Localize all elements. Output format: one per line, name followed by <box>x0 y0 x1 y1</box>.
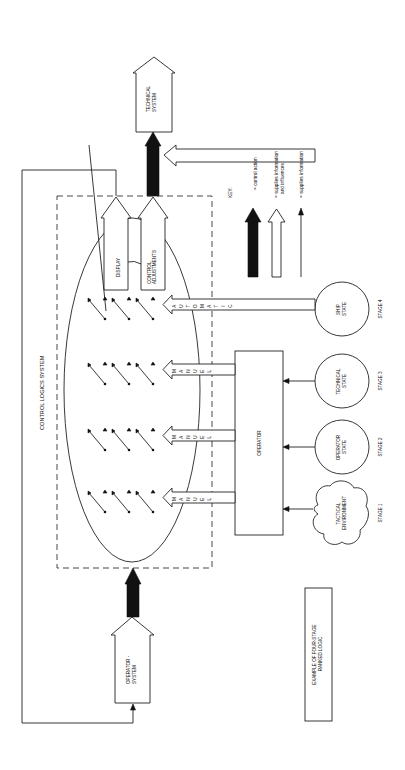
control-action-arrow-bottom <box>125 568 141 617</box>
control-logics-system-box <box>57 196 212 568</box>
switch-group-stage-4 <box>88 297 155 320</box>
operator-box: OPERATOR <box>235 351 283 535</box>
switch-groups <box>88 297 155 513</box>
tactical-environment-node: TACTICAL ENVIRONMENT <box>313 481 368 545</box>
operator-state-node: OPERATOR STATE <box>315 420 369 474</box>
svg-text:M: M <box>200 304 205 308</box>
automatic-arrow-stage-4 <box>164 145 315 166</box>
diagram-title-box: EXAMPLE OF FOUR-STAGE RANKED LOGIC <box>305 588 332 721</box>
operator-label: OPERATOR <box>257 430 262 456</box>
control-adjustments-arrow: CONTROL ADJUSTMENTS <box>138 197 168 290</box>
stage-2-label: STAGE 2 <box>378 437 383 457</box>
svg-text:L: L <box>207 497 212 500</box>
svg-text:E: E <box>200 498 205 501</box>
manual-arrow-stage-1: MANUEL <box>163 488 235 507</box>
info-arrow-stage-1 <box>283 507 313 512</box>
switch-group-stage-1 <box>88 490 155 513</box>
control-logics-system-label: CONTROL LOGICS SYSTEM <box>39 355 45 430</box>
svg-text:N: N <box>186 369 191 372</box>
info-arrow-stage-3 <box>283 379 315 384</box>
svg-text:L: L <box>207 435 212 438</box>
switch-group-stage-3 <box>88 362 155 385</box>
svg-text:= control action: = control action <box>253 157 258 190</box>
svg-text:T: T <box>214 305 219 308</box>
svg-text:M: M <box>172 435 177 439</box>
svg-text:N: N <box>186 435 191 438</box>
display-control-connector <box>128 261 141 264</box>
svg-text:U: U <box>179 304 184 307</box>
stage-1-label: STAGE 1 <box>378 503 383 523</box>
svg-text:O: O <box>193 304 198 308</box>
svg-text:I: I <box>221 305 226 306</box>
display-label: DISPLAY <box>116 258 121 277</box>
ship-state-node: SHIP STATE <box>315 282 369 336</box>
svg-text:U: U <box>193 497 198 500</box>
key-title: KEY: <box>228 187 233 198</box>
control-action-arrow-top <box>145 132 161 196</box>
svg-text:M: M <box>172 497 177 501</box>
svg-text:= supplies information: = supplies information <box>299 151 304 198</box>
four-stage-ranked-logic-diagram: TECHNICAL SYSTEM CONTROL LOGICS SYSTEM D… <box>0 0 405 770</box>
svg-text:E: E <box>200 370 205 373</box>
info-arrow-stage-2 <box>283 445 315 450</box>
switch-group-stage-2 <box>88 428 155 451</box>
svg-text:SHIP STATE: SHIP STATE <box>336 302 347 316</box>
svg-text:U: U <box>193 369 198 372</box>
automatic-arrow-stage-4: AUTOMATIC <box>163 295 315 314</box>
stage-4-label: STAGE 4 <box>378 299 383 319</box>
key-supplies-info: = supplies information <box>299 151 305 277</box>
svg-text:L: L <box>207 369 212 372</box>
technical-system-arrow: TECHNICAL SYSTEM <box>133 57 175 132</box>
technical-state-node: TECHNICAL STATE <box>315 354 369 408</box>
svg-text:N: N <box>186 497 191 500</box>
svg-text:M: M <box>172 369 177 373</box>
manual-arrow-stage-2: MANUEL <box>163 426 235 445</box>
svg-text:T: T <box>186 305 191 308</box>
svg-text:E: E <box>200 436 205 439</box>
key-control-action: = control action <box>245 157 261 277</box>
operator-system-arrow: OPERATOR - SYSTEM <box>111 617 154 703</box>
stage-3-label: STAGE 3 <box>378 371 383 391</box>
key-legend: KEY: = control action = supplies informa… <box>228 150 304 277</box>
display-arrow: DISPLAY <box>101 197 131 290</box>
logic-ellipse <box>64 218 200 562</box>
key-supplies-info-and-influences: = supplies information and influences <box>268 150 285 277</box>
svg-text:U: U <box>193 435 198 438</box>
